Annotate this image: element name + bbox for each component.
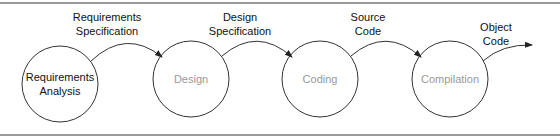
edge-label-line2: Specification (209, 24, 271, 38)
node-label-line2: Analysis (26, 84, 94, 98)
node-label-requirements-analysis: Requirements Analysis (26, 70, 94, 98)
edge-label-line1: Requirements (73, 10, 141, 24)
edge-label-line2: Code (351, 24, 386, 38)
edge-label-line2: Specification (73, 24, 141, 38)
node-label-line1: Requirements (26, 70, 94, 84)
edge-label-line1: Object (480, 20, 512, 34)
edge-label-requirements-specification: Requirements Specification (73, 10, 141, 38)
edge-label-object-code: Object Code (480, 20, 512, 48)
diagram-frame: Requirements Specification Design Specif… (0, 0, 560, 138)
node-label-design: Design (174, 72, 208, 86)
node-label-compilation: Compilation (421, 72, 479, 86)
node-label-line1: Design (174, 72, 208, 86)
edge-arrow-requirements-specification (91, 43, 162, 61)
node-label-coding: Coding (303, 72, 338, 86)
edge-arrow-design-specification (222, 41, 292, 57)
edge-label-design-specification: Design Specification (209, 10, 271, 38)
edge-arrow-source-code (351, 41, 421, 57)
node-label-line1: Coding (303, 72, 338, 86)
edge-label-line2: Code (480, 34, 512, 48)
edge-label-line1: Design (209, 10, 271, 24)
node-label-line1: Compilation (421, 72, 479, 86)
edge-label-line1: Source (351, 10, 386, 24)
edge-label-source-code: Source Code (351, 10, 386, 38)
